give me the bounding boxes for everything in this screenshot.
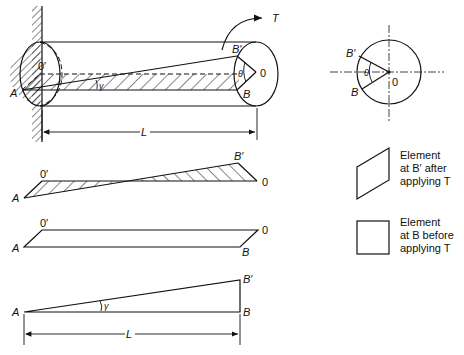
cs-label-O: 0 xyxy=(392,76,398,88)
main-cylinder-view: T B′ θ 0 B 0′ A γ L xyxy=(9,6,280,142)
ts-label-B-prime: B′ xyxy=(234,150,244,162)
legend: Element at B′ after applying T Element a… xyxy=(357,148,454,254)
st-label-gamma: γ xyxy=(104,301,109,311)
ts-label-O-prime: 0′ xyxy=(40,168,48,180)
label-B: B xyxy=(243,88,250,100)
shear-triangle-view: A B′ B γ L xyxy=(11,273,253,345)
untwisted-strip-view: 0′ A 0 B xyxy=(11,217,268,258)
svg-text:Element: Element xyxy=(400,216,440,228)
cs-label-theta: θ xyxy=(364,68,369,78)
cs-label-B: B xyxy=(351,86,358,98)
ts-label-A: A xyxy=(11,192,19,204)
us-label-O: 0 xyxy=(262,224,268,236)
svg-text:applying T: applying T xyxy=(400,175,451,187)
label-theta: θ xyxy=(238,69,243,79)
hatched-strip xyxy=(22,74,240,90)
label-T: T xyxy=(272,12,280,24)
svg-text:applying T: applying T xyxy=(400,242,451,254)
torque-arrow xyxy=(222,18,262,50)
ts-label-O: 0 xyxy=(262,176,268,188)
fixed-wall xyxy=(10,6,42,142)
st-label-L: L xyxy=(126,328,132,340)
cross-section-view: B′ θ 0 B xyxy=(330,25,444,122)
cs-label-B-prime: B′ xyxy=(346,47,356,59)
label-A: A xyxy=(9,87,17,99)
legend-item-before: Element at B before applying T xyxy=(357,216,454,254)
label-B-prime: B′ xyxy=(232,43,242,55)
svg-text:at B′ after: at B′ after xyxy=(400,162,447,174)
st-label-A: A xyxy=(11,306,19,318)
legend-item-after: Element at B′ after applying T xyxy=(357,148,451,199)
svg-text:at B before: at B before xyxy=(400,229,454,241)
label-gamma: γ xyxy=(99,81,104,91)
twisted-strip-view: 0′ A B′ 0 xyxy=(11,150,268,204)
label-L: L xyxy=(141,126,147,138)
us-label-O-prime: 0′ xyxy=(40,217,48,229)
svg-text:Element: Element xyxy=(400,149,440,161)
torsion-diagram: T B′ θ 0 B 0′ A γ L B′ θ 0 B 0′ A B′ 0 xyxy=(0,0,464,355)
us-label-B: B xyxy=(242,246,249,258)
us-label-A: A xyxy=(11,242,19,254)
label-O-prime: 0′ xyxy=(38,60,46,72)
label-O: 0 xyxy=(260,67,266,79)
st-label-B-prime: B′ xyxy=(243,273,253,285)
st-label-B: B xyxy=(243,306,250,318)
